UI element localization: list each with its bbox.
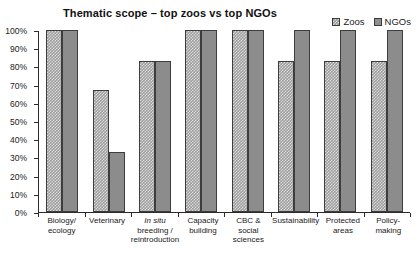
legend-item-zoos: Zoos bbox=[332, 16, 364, 27]
bars-layer bbox=[39, 31, 410, 212]
y-axis-tick bbox=[34, 86, 38, 87]
legend-swatch-ngos-icon bbox=[374, 18, 382, 26]
y-axis-tick-label: 90% bbox=[10, 44, 27, 54]
y-axis-tick bbox=[34, 67, 38, 68]
bar-zoos[interactable] bbox=[139, 61, 155, 212]
y-axis-tick-label: 80% bbox=[10, 62, 27, 72]
x-axis-label: Policy-making bbox=[366, 216, 411, 245]
chart-legend: Zoos NGOs bbox=[332, 16, 411, 27]
y-axis-tick bbox=[34, 122, 38, 123]
y-axis-tick-label: 100% bbox=[5, 26, 27, 36]
legend-label-zoos: Zoos bbox=[343, 16, 364, 27]
x-axis-label: Biology/ecology bbox=[39, 216, 84, 245]
bar-zoos[interactable] bbox=[185, 30, 201, 212]
bar-group bbox=[39, 31, 85, 212]
bar-zoos[interactable] bbox=[93, 90, 109, 212]
bar-ngos[interactable] bbox=[155, 61, 171, 212]
y-axis-tick-label: 70% bbox=[10, 81, 27, 91]
x-axis-label: In situbreeding /reintroduction bbox=[130, 216, 180, 245]
bar-ngos[interactable] bbox=[62, 30, 78, 212]
bar-zoos[interactable] bbox=[324, 61, 340, 212]
y-axis-tick-label: 20% bbox=[10, 172, 27, 182]
x-axis-label: Veterinary bbox=[84, 216, 129, 245]
bar-ngos[interactable] bbox=[340, 30, 356, 212]
y-axis-tick-label: 0% bbox=[15, 208, 27, 218]
bar-group bbox=[132, 31, 178, 212]
chart-title: Thematic scope – top zoos vs top NGOs bbox=[0, 7, 340, 19]
bar-group bbox=[271, 31, 317, 212]
bar-zoos[interactable] bbox=[278, 61, 294, 212]
y-axis-tick bbox=[34, 195, 38, 196]
bar-ngos[interactable] bbox=[248, 30, 264, 212]
bar-group bbox=[85, 31, 131, 212]
y-axis-tick bbox=[34, 177, 38, 178]
x-axis-label: Protectedareas bbox=[320, 216, 365, 245]
bar-group bbox=[225, 31, 271, 212]
y-axis-tick bbox=[34, 104, 38, 105]
bar-ngos[interactable] bbox=[109, 152, 125, 212]
x-axis-labels: Biology/ecologyVeterinaryIn situbreeding… bbox=[39, 216, 411, 245]
y-axis-tick-label: 40% bbox=[10, 135, 27, 145]
bar-ngos[interactable] bbox=[201, 30, 217, 212]
y-axis-tick-label: 60% bbox=[10, 99, 27, 109]
y-axis-tick bbox=[34, 140, 38, 141]
bar-ngos[interactable] bbox=[387, 30, 403, 212]
y-axis-tick bbox=[34, 31, 38, 32]
plot-area: 0%10%20%30%40%50%60%70%80%90%100% bbox=[38, 31, 410, 213]
legend-label-ngos: NGOs bbox=[385, 16, 411, 27]
bar-zoos[interactable] bbox=[232, 30, 248, 212]
x-axis-label: Sustainability bbox=[271, 216, 320, 245]
bar-zoos[interactable] bbox=[371, 61, 387, 212]
y-axis-tick-label: 10% bbox=[10, 190, 27, 200]
bar-group bbox=[317, 31, 363, 212]
x-axis-label: Capacitybuilding bbox=[180, 216, 225, 245]
x-axis-label: CBC &socialsciences bbox=[226, 216, 271, 245]
legend-swatch-zoos-icon bbox=[332, 18, 340, 26]
bar-group bbox=[364, 31, 410, 212]
bar-zoos[interactable] bbox=[46, 30, 62, 212]
y-axis-tick-label: 30% bbox=[10, 153, 27, 163]
bar-ngos[interactable] bbox=[294, 30, 310, 212]
legend-item-ngos: NGOs bbox=[374, 16, 411, 27]
bar-group bbox=[178, 31, 224, 212]
y-axis-tick bbox=[34, 158, 38, 159]
y-axis-tick-label: 50% bbox=[10, 117, 27, 127]
y-axis-tick bbox=[34, 49, 38, 50]
